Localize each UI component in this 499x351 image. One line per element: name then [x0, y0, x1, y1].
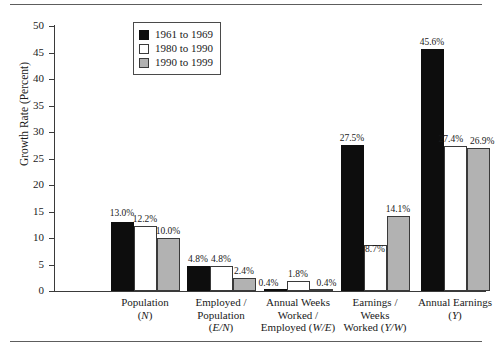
bar-value-label: 13.0%: [110, 208, 135, 218]
bar[interactable]: 14.1%: [387, 216, 410, 291]
bar-value-label: 4.8%: [188, 254, 208, 264]
bar[interactable]: 27.5%: [341, 145, 364, 291]
bar[interactable]: 12.2%: [134, 226, 157, 291]
y-axis-tick: [49, 26, 54, 27]
y-axis-tick: [49, 53, 54, 54]
bar-value-label: 8.7%: [365, 244, 385, 254]
bar-value-label: 4.8%: [211, 254, 231, 264]
bar[interactable]: 2.4%: [233, 278, 256, 291]
y-axis-tick: [49, 79, 54, 80]
bar-value-label: 14.1%: [386, 204, 411, 214]
x-axis-label-line: (Y): [405, 309, 499, 322]
bar-value-label: 0.4%: [317, 278, 337, 288]
bar-value-label: 26.9%: [470, 136, 495, 146]
bar-value-label: 27.4%: [439, 134, 464, 144]
y-axis-tick: [49, 159, 54, 160]
bar-group: 0.4%1.8%0.4%: [264, 26, 333, 291]
x-axis-label-line: Annual Earnings: [405, 296, 499, 309]
bar-value-label: 27.5%: [340, 133, 365, 143]
x-axis-line: [55, 291, 486, 292]
bar-group: 27.5%8.7%14.1%: [341, 26, 410, 291]
legend-item[interactable]: 1961 to 1969: [139, 28, 213, 41]
y-axis-tick: [49, 212, 54, 213]
y-axis-title: Growth Rate (Percent): [18, 44, 30, 184]
bar-value-label: 2.4%: [234, 266, 254, 276]
bar[interactable]: 1.8%: [287, 281, 310, 291]
x-axis-category-label: Annual Earnings(Y): [405, 296, 499, 321]
y-axis-tick: [49, 291, 54, 292]
y-axis-tick-label: 50: [4, 20, 44, 31]
plot-area: 13.0%12.2%10.0%4.8%4.8%2.4%0.4%1.8%0.4%2…: [55, 26, 486, 291]
y-axis-tick: [49, 265, 54, 266]
bar[interactable]: 13.0%: [111, 222, 134, 291]
legend-swatch: [139, 58, 149, 68]
y-axis-tick-label: 10: [4, 232, 44, 243]
bar[interactable]: 45.6%: [421, 49, 444, 291]
y-axis-tick: [49, 132, 54, 133]
y-axis-tick-label: 5: [4, 259, 44, 270]
y-axis-tick-label: 0: [4, 285, 44, 296]
bar[interactable]: 8.7%: [364, 245, 387, 291]
bar[interactable]: 0.4%: [310, 289, 333, 291]
bar-value-label: 1.8%: [288, 269, 308, 279]
bottom-divider-rule: [10, 341, 482, 342]
y-axis-tick: [49, 106, 54, 107]
legend-label: 1980 to 1990: [155, 43, 213, 54]
y-axis-tick-label: 15: [4, 206, 44, 217]
x-axis-label-line: Worked (Y/W): [325, 321, 425, 334]
bar[interactable]: 4.8%: [187, 266, 210, 291]
bar[interactable]: 4.8%: [210, 266, 233, 291]
bar[interactable]: 26.9%: [467, 148, 490, 291]
legend-swatch: [139, 44, 149, 54]
top-divider-rule: [10, 4, 482, 5]
bar-value-label: 45.6%: [420, 37, 445, 47]
bar-group: 45.6%27.4%26.9%: [421, 26, 490, 291]
bar[interactable]: 0.4%: [264, 289, 287, 291]
legend-item[interactable]: 1980 to 1990: [139, 42, 213, 55]
bar[interactable]: 27.4%: [444, 146, 467, 291]
legend-item[interactable]: 1990 to 1999: [139, 56, 213, 69]
legend: 1961 to 19691980 to 19901990 to 1999: [133, 22, 221, 75]
legend-label: 1961 to 1969: [155, 29, 213, 40]
legend-swatch: [139, 30, 149, 40]
y-axis-tick: [49, 185, 54, 186]
bar-value-label: 0.4%: [259, 278, 279, 288]
bar-value-label: 12.2%: [133, 214, 158, 224]
bar[interactable]: 10.0%: [157, 238, 180, 291]
bar-value-label: 10.0%: [156, 226, 181, 236]
legend-label: 1990 to 1999: [155, 57, 213, 68]
y-axis-tick: [49, 238, 54, 239]
